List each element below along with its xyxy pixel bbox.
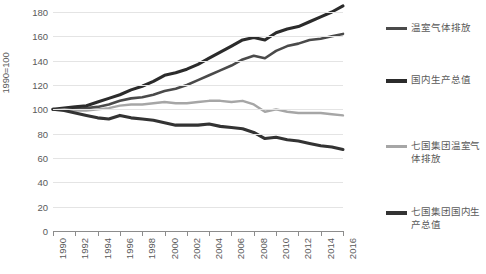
legend-item-label: 温室气体排放 [411,22,470,35]
x-axis-tick-label: 2002 [191,238,202,259]
y-axis-tick-label: 20 [18,201,48,212]
y-axis-tick-label: 160 [18,31,48,42]
y-axis-title: 1990=100 [0,28,14,118]
x-axis-tick-marks [53,231,344,236]
x-axis-tick-label: 2016 [347,238,358,259]
x-axis-tick-mark [209,231,210,236]
legend-item[interactable]: 国内生产总值 [386,74,486,87]
legend-color-swatch-icon [386,145,407,148]
x-axis-tick-mark [231,231,232,236]
x-axis-tick-label: 1994 [102,238,113,259]
x-axis-tick-label: 2004 [213,238,224,259]
gridline [53,36,343,37]
y-axis-tick-label: 140 [18,55,48,66]
gridline [53,85,343,86]
series-line [53,34,343,109]
legend-item[interactable]: 七国集团温室气体排放 [386,140,486,165]
y-axis-tick-label: 100 [18,104,48,115]
x-axis-tick-mark [142,231,143,236]
x-axis-tick-mark [298,231,299,236]
series-line [53,109,343,149]
x-axis-tick-label: 2006 [235,238,246,259]
chart-container: 1990=100 020406080100120140160180 199019… [0,0,486,274]
x-axis-tick-label: 1996 [124,238,135,259]
gridline [53,158,343,159]
legend-color-swatch-icon [386,79,407,83]
x-axis-tick-label: 1992 [79,238,90,259]
x-axis-tick-label: 2012 [302,238,313,259]
x-axis-tick-mark [254,231,255,236]
x-axis-tick-label: 2008 [258,238,269,259]
x-axis-tick-label: 1990 [57,238,68,259]
x-axis-tick-labels: 1990199219941996199820002002200420062008… [53,238,344,274]
legend-item[interactable]: 七国集团国内生产总值 [386,206,486,231]
gridline [53,109,343,110]
series-lines [53,12,343,231]
y-axis-tick-label: 180 [18,7,48,18]
x-axis-tick-mark [343,231,344,236]
legend-item-label: 七国集团国内生产总值 [411,206,486,231]
y-axis-tick-label: 60 [18,153,48,164]
legend-color-swatch-icon [386,211,407,215]
x-axis-tick-mark [187,231,188,236]
x-axis-tick-mark [120,231,121,236]
gridline [53,134,343,135]
legend-item-label: 国内生产总值 [411,74,470,87]
x-axis-tick-label: 2014 [325,238,336,259]
gridline [53,182,343,183]
x-axis-tick-mark [75,231,76,236]
legend-color-swatch-icon [386,27,407,30]
y-axis-tick-label: 0 [18,226,48,237]
y-axis-tick-label: 120 [18,80,48,91]
legend-item[interactable]: 温室气体排放 [386,22,486,35]
chart-legend: 温室气体排放国内生产总值七国集团温室气体排放七国集团国内生产总值 [386,0,486,274]
legend-item-label: 七国集团温室气体排放 [411,140,486,165]
gridline [53,12,343,13]
x-axis-tick-mark [321,231,322,236]
y-axis-tick-labels: 020406080100120140160180 [18,0,48,240]
x-axis-tick-label: 2000 [169,238,180,259]
gridline [53,61,343,62]
x-axis-tick-mark [165,231,166,236]
x-axis-tick-mark [98,231,99,236]
plot-area [53,12,343,231]
gridline [53,207,343,208]
y-axis-tick-label: 80 [18,128,48,139]
series-line [53,6,343,109]
y-axis-tick-label: 40 [18,177,48,188]
x-axis-tick-label: 2010 [280,238,291,259]
x-axis-tick-mark [53,231,54,236]
x-axis-tick-mark [276,231,277,236]
x-axis-tick-label: 1998 [146,238,157,259]
